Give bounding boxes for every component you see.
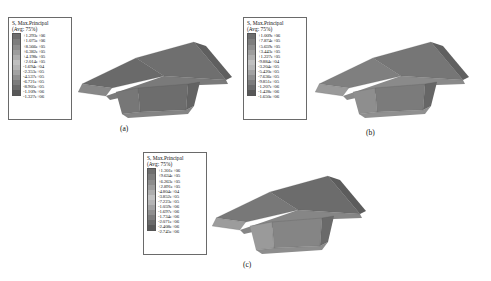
- mesh-svg-b: [311, 36, 469, 120]
- mesh-face-rib-right: [423, 82, 437, 110]
- legend-b: S, Max.Principal (Avg: 75%) +1.009e+06 +…: [243, 17, 307, 120]
- legend-subtitle: (Avg: 75%): [247, 26, 303, 32]
- legend-tick: -1.650e+06: [258, 94, 280, 99]
- legend-tick: -1.327e+06: [23, 94, 45, 99]
- legend-ticks-a: +1.293e+06 +1.075e+06 +8.566e+05 +6.382e…: [23, 33, 45, 99]
- stress-contour-mesh-c: [206, 168, 366, 256]
- caption-b: (b): [366, 128, 375, 137]
- legend-c: S, Max.Principal (Avg: 75%) +1.301e+06 +…: [143, 152, 207, 255]
- legend-subtitle: (Avg: 75%): [12, 26, 68, 32]
- mesh-face-rib-right: [320, 216, 334, 246]
- legend-a: S, Max.Principal (Avg: 75%) +1.293e+06 +…: [8, 17, 72, 120]
- legend-subtitle: (Avg: 75%): [147, 161, 203, 167]
- stress-contour-mesh-b: [311, 36, 469, 120]
- mesh-face-rib-front: [116, 88, 140, 114]
- stress-contour-mesh-a: [76, 36, 232, 120]
- legend-body: +1.301e+06 +9.634e+05 +6.263e+05 +2.891e…: [147, 168, 203, 234]
- colorbar-cell: [13, 90, 20, 95]
- colorbar-cell: [148, 225, 155, 230]
- legend-body: +1.009e+06 +7.874e+05 +5.659e+05 +3.443e…: [247, 33, 303, 99]
- caption-c: (c): [243, 260, 251, 269]
- mesh-svg-c: [206, 168, 366, 256]
- mesh-face-rib-body: [138, 84, 188, 112]
- colorbar-cell: [248, 90, 255, 95]
- legend-body: +1.293e+06 +1.075e+06 +8.566e+05 +6.382e…: [12, 33, 68, 99]
- colorbar-a: [12, 33, 21, 96]
- mesh-face-rib-right: [186, 82, 200, 110]
- colorbar-b: [247, 33, 256, 96]
- colorbar-c: [147, 168, 156, 231]
- legend-ticks-b: +1.009e+06 +7.874e+05 +5.659e+05 +3.443e…: [258, 33, 280, 99]
- mesh-svg-a: [76, 36, 232, 120]
- mesh-face-rib-front: [250, 222, 274, 250]
- caption-a: (a): [120, 124, 128, 133]
- legend-ticks-c: +1.301e+06 +9.634e+05 +6.263e+05 +2.891e…: [158, 168, 180, 234]
- legend-tick: -2.745e+06: [158, 229, 180, 234]
- mesh-face-rib-body: [375, 84, 425, 112]
- mesh-face-rib-body: [272, 218, 322, 248]
- mesh-face-rib-front: [353, 88, 377, 114]
